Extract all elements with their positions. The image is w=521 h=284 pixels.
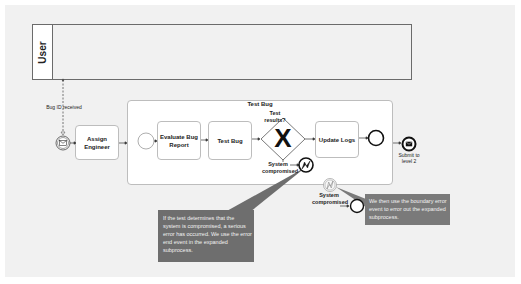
message-start-event[interactable] [56,136,70,150]
arrowhead [258,138,260,140]
arrowhead [74,142,76,144]
error-end-label: System compromised [262,161,294,175]
gateway-x-marker: X [271,124,295,152]
envelope-icon [60,141,67,146]
arrowhead [313,138,315,140]
arrowhead [206,139,208,141]
gateway-label: Test results? [260,110,290,124]
boundary-error-event[interactable] [324,179,337,192]
envelope-icon [406,142,412,147]
boundary-end-event[interactable] [351,200,364,213]
error-end-event[interactable] [299,158,313,172]
arrowhead [347,205,349,207]
inner-end-event[interactable] [369,131,384,146]
message-end-event[interactable] [403,138,416,151]
arrowhead [125,142,127,144]
boundary-error-label: System compromised [312,192,346,206]
diagram-connectors [0,0,521,284]
callout-text-error-end: If the test determines that the system i… [163,214,253,254]
arrowhead [399,142,401,144]
message-flow-label: Bug ID received [40,104,88,110]
message-flow-arrow [61,132,65,135]
message-flow-origin [62,79,64,81]
callout-text-boundary: We then use the boundary error event to … [369,197,449,221]
arrowhead [155,140,157,142]
message-end-label: Submit to level 2 [395,152,423,164]
inner-start-event[interactable] [138,133,154,149]
